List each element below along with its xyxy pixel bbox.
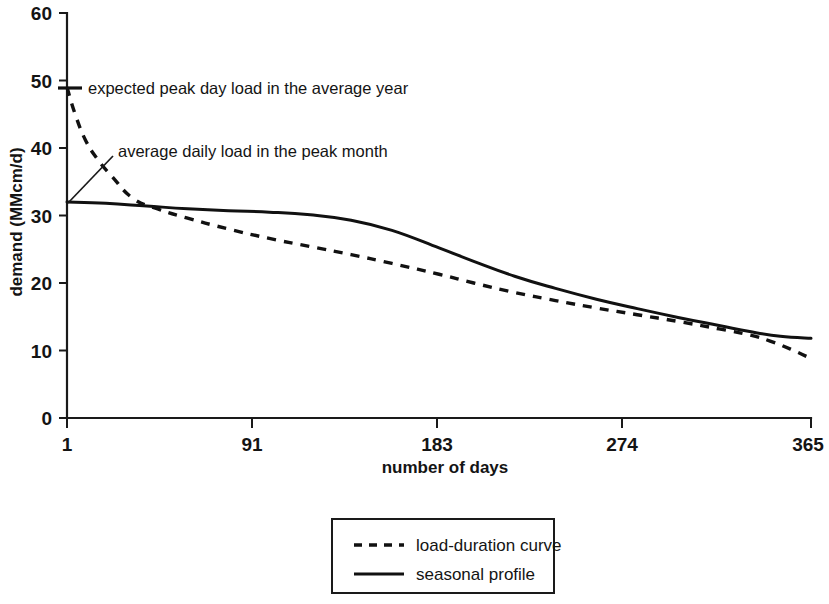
annotation-expected-peak-day-load: expected peak day load in the average ye… xyxy=(58,79,409,97)
y-tick-labels: 0 10 20 30 40 50 60 xyxy=(31,3,52,429)
x-tick-labels: 1 91 183 274 365 xyxy=(62,434,825,455)
x-tick-label-183: 183 xyxy=(421,434,453,455)
legend-label-seasonal-profile: seasonal profile xyxy=(416,565,535,584)
chart-figure: 0 10 20 30 40 50 60 1 91 183 274 365 num… xyxy=(0,0,829,604)
chart-axes xyxy=(59,13,811,428)
expected-peak-day-load-label: expected peak day load in the average ye… xyxy=(88,79,409,97)
demand-load-duration-chart: 0 10 20 30 40 50 60 1 91 183 274 365 num… xyxy=(0,0,829,604)
x-tick-label-365: 365 xyxy=(792,434,824,455)
y-tick-label-40: 40 xyxy=(31,138,52,159)
legend-label-load-duration-curve: load-duration curve xyxy=(416,536,562,555)
x-tick-label-1: 1 xyxy=(62,434,73,455)
annotation-average-daily-load: average daily load in the peak month xyxy=(68,142,388,203)
series-load-duration-curve xyxy=(67,87,811,358)
y-tick-label-10: 10 xyxy=(31,341,52,362)
series-seasonal-profile xyxy=(67,202,811,338)
chart-legend: load-duration curve seasonal profile xyxy=(332,519,562,593)
x-tick-label-91: 91 xyxy=(241,434,263,455)
x-axis-title: number of days xyxy=(382,458,509,477)
y-tick-label-20: 20 xyxy=(31,273,52,294)
y-tick-label-0: 0 xyxy=(41,408,52,429)
y-tick-label-50: 50 xyxy=(31,71,52,92)
y-tick-label-60: 60 xyxy=(31,3,52,24)
x-tick-label-274: 274 xyxy=(606,434,638,455)
y-tick-label-30: 30 xyxy=(31,206,52,227)
average-daily-load-leader-line xyxy=(68,156,113,203)
y-axis-title: demand (MMcm/d) xyxy=(7,147,26,296)
average-daily-load-label: average daily load in the peak month xyxy=(118,142,388,160)
